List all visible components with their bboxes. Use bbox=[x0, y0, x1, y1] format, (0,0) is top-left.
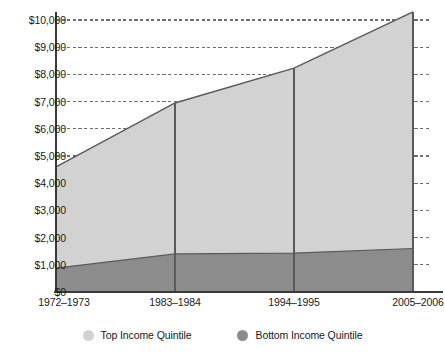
legend-item: Top Income Quintile bbox=[83, 329, 192, 341]
y-axis-tick-label: $5,000 bbox=[0, 151, 66, 161]
y-axis-tick-label: $10,000 bbox=[0, 15, 66, 25]
x-axis-tick-label: 1983–1984 bbox=[129, 296, 221, 308]
y-axis-tick-label: $3,000 bbox=[0, 205, 66, 215]
y-axis-tick-label: $8,000 bbox=[0, 69, 66, 79]
legend-swatch-icon bbox=[83, 330, 94, 341]
legend-swatch-icon bbox=[237, 330, 248, 341]
x-axis-tick-label: 1972–1973 bbox=[18, 296, 110, 308]
income-quintile-area-chart: $10,000$9,000$8,000$7,000$6,000$5,000$4,… bbox=[0, 0, 445, 353]
chart-legend: Top Income QuintileBottom Income Quintil… bbox=[0, 329, 445, 341]
legend-item: Bottom Income Quintile bbox=[237, 329, 362, 341]
y-axis-tick-label: $1,000 bbox=[0, 260, 66, 270]
legend-label: Top Income Quintile bbox=[101, 329, 192, 341]
legend-label: Bottom Income Quintile bbox=[255, 329, 362, 341]
x-axis-tick-label: 2005–2006 bbox=[372, 296, 445, 308]
y-axis-tick-label: $7,000 bbox=[0, 97, 66, 107]
y-axis-tick-label: $2,000 bbox=[0, 233, 66, 243]
y-axis-tick-label: $4,000 bbox=[0, 178, 66, 188]
x-axis-tick-label: 1994–1995 bbox=[248, 296, 340, 308]
y-axis-tick-label: $6,000 bbox=[0, 124, 66, 134]
y-axis-tick-label: $9,000 bbox=[0, 42, 66, 52]
